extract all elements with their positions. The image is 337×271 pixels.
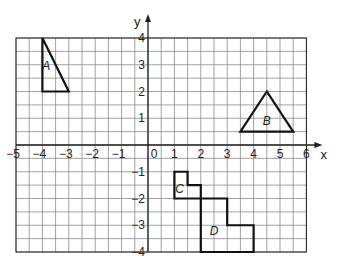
y-tick-label: 1 [138, 111, 145, 125]
y-tick-label: −2 [131, 192, 145, 206]
x-tick-label: 5 [277, 147, 284, 161]
x-tick-label: −3 [59, 147, 73, 161]
x-tick-label: −2 [85, 147, 99, 161]
y-tick-label: 2 [138, 85, 145, 99]
x-tick-label: 6 [303, 147, 310, 161]
shape-label-b: B [263, 114, 271, 128]
x-tick-label: −4 [33, 147, 47, 161]
x-tick-label: −1 [112, 147, 126, 161]
y-tick-label: −4 [131, 245, 145, 259]
y-tick-label: 3 [138, 58, 145, 72]
x-tick-label: 4 [250, 147, 257, 161]
x-tick-label: −5 [6, 147, 20, 161]
x-tick-label: 3 [224, 147, 231, 161]
y-axis-arrow-icon [145, 14, 151, 22]
x-axis-label: x [320, 147, 327, 162]
y-tick-label: 4 [138, 31, 145, 45]
x-tick-label: 0 [151, 147, 158, 161]
shape-label-d: D [210, 224, 219, 238]
y-axis-label: y [134, 14, 141, 29]
y-tick-label: −3 [131, 218, 145, 232]
x-tick-label: 1 [171, 147, 178, 161]
y-tick-label: −1 [131, 165, 145, 179]
coordinate-grid: xy−5−4−3−2−101234564321−1−2−3−4ABCD [0, 0, 337, 271]
x-tick-label: 2 [197, 147, 204, 161]
shape-label-c: C [175, 182, 184, 196]
shape-label-a: A [41, 59, 50, 73]
